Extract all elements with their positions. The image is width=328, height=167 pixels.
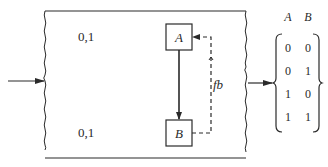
left-brace [273, 34, 282, 132]
row-3-a: 1 [285, 87, 291, 101]
output-set-rows: 0 0 0 1 1 0 1 1 [285, 41, 311, 124]
output-header-b: B [304, 10, 312, 24]
node-b-label: B [175, 126, 183, 141]
diagram-canvas: 0,1 0,1 A B fb A B 0 0 0 1 1 0 1 1 [0, 0, 328, 167]
node-a: A [166, 24, 192, 50]
label-bottom-0-1: 0,1 [78, 125, 94, 140]
left-wavy-edge [44, 11, 46, 150]
row-1-b: 0 [305, 41, 311, 55]
feedback-label: fb [213, 77, 224, 92]
right-wavy-edge [245, 11, 247, 152]
row-4-a: 1 [285, 110, 291, 124]
row-4-b: 1 [305, 110, 311, 124]
row-2-b: 1 [305, 64, 311, 78]
edge-feedback-b-to-a [192, 37, 213, 133]
output-header-a: A [283, 10, 292, 24]
row-3-b: 0 [305, 87, 311, 101]
output-set-bracket [273, 34, 322, 132]
node-b: B [166, 120, 192, 146]
right-brace [313, 34, 322, 132]
label-top-0-1: 0,1 [78, 29, 94, 44]
node-a-label: A [174, 30, 183, 45]
row-1-a: 0 [285, 41, 291, 55]
row-2-a: 0 [285, 64, 291, 78]
